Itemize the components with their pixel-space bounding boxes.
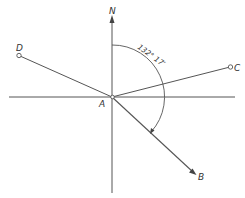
line-a-d	[17, 53, 112, 97]
origin-label: A	[98, 99, 105, 109]
point-b-label: B	[198, 172, 204, 182]
point-c-marker	[228, 65, 232, 69]
north-south-axis	[110, 15, 115, 193]
angle-label: 132° 17′	[136, 42, 167, 68]
north-arrow-icon	[110, 15, 115, 23]
line-a-c	[112, 65, 233, 97]
point-d-marker	[17, 53, 21, 57]
point-d-label: D	[16, 43, 23, 53]
origin-point-marker	[111, 95, 115, 99]
north-label: N	[109, 6, 116, 16]
bearing-diagram: N D C B A 132° 17′	[0, 0, 245, 198]
line-a-b	[112, 97, 197, 175]
point-c-label: C	[234, 63, 241, 73]
